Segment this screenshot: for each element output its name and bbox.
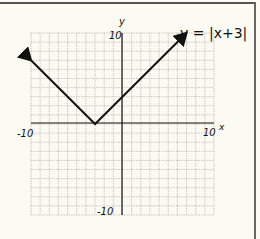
x-max-label: 10 bbox=[203, 127, 216, 138]
equation-label: y = |x+3| bbox=[180, 25, 247, 42]
y-axis-label: y bbox=[118, 16, 126, 27]
graph: 10 y -10 10 x -10 y = |x+3| bbox=[0, 0, 260, 239]
x-min-label: -10 bbox=[17, 128, 33, 139]
x-axis-label: x bbox=[218, 122, 225, 132]
y-max-label: 10 bbox=[109, 30, 122, 41]
y-min-label: -10 bbox=[97, 206, 113, 217]
